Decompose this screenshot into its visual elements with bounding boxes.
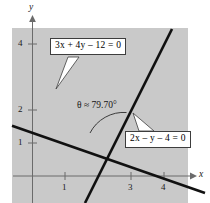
y-tick-label-4: 4 [18, 39, 23, 48]
y-tick-label-1: 1 [18, 138, 23, 147]
x-tick-label-4: 4 [161, 183, 166, 192]
callout-line-3x-4y-12-text: 3x + 4y – 12 = 0 [55, 40, 121, 50]
callout-leader-1 [56, 57, 79, 89]
y-axis-label: y [29, 3, 33, 13]
x-axis [13, 172, 197, 180]
x-axis-label: x [199, 170, 203, 180]
callout-line-3x-4y-12: 3x + 4y – 12 = 0 [50, 38, 126, 55]
x-tick-label-1: 1 [62, 183, 67, 192]
callout-leader-2 [133, 113, 154, 131]
angle-annotation: θ ≈ 79.70° [77, 101, 117, 111]
y-tick-label-2: 2 [18, 105, 23, 114]
angle-annotation-text: θ ≈ 79.70° [77, 100, 117, 110]
callout-line-2x-y-4: 2x – y – 4 = 0 [125, 131, 191, 148]
callout-line-2x-y-4-text: 2x – y – 4 = 0 [130, 133, 186, 143]
y-axis [28, 15, 37, 203]
figure-container: 4 2 1 1 3 4 y x 3x + 4y – 12 = 0 2x – y … [0, 0, 210, 203]
x-tick-label-3: 3 [128, 183, 133, 192]
